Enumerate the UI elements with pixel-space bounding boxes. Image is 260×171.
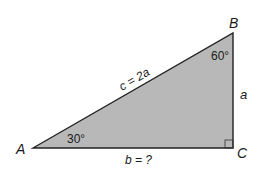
angle-label-a: 30°	[67, 132, 85, 146]
side-label-base: b = ?	[125, 153, 152, 167]
angle-label-b: 60°	[211, 49, 229, 63]
side-label-vertical: a	[240, 87, 247, 102]
triangle-diagram: A B C 30° 60° c = 2a a b = ?	[0, 0, 260, 171]
vertex-label-c: C	[237, 145, 248, 161]
vertex-label-a: A	[15, 141, 25, 157]
vertex-label-b: B	[229, 15, 238, 31]
triangle-shape	[33, 33, 233, 148]
